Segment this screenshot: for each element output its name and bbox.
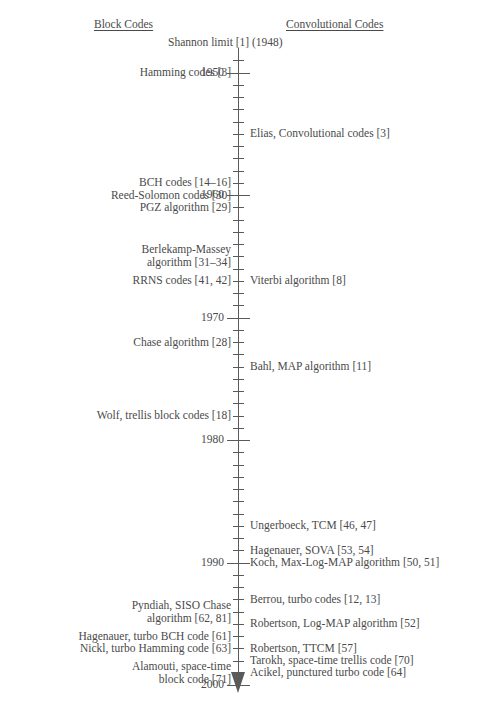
axis-tick-minor bbox=[233, 293, 244, 294]
axis-tick-minor bbox=[233, 599, 244, 600]
axis-tick-minor bbox=[233, 146, 244, 147]
column-heading-convolutional-codes: Convolutional Codes bbox=[286, 18, 383, 30]
axis-tick-minor bbox=[233, 183, 244, 184]
timeline-event-label: Berrou, turbo codes [12, 13] bbox=[250, 593, 380, 606]
timeline-event-label: Elias, Convolutional codes [3] bbox=[250, 127, 390, 140]
timeline-event-label: Bahl, MAP algorithm [11] bbox=[250, 360, 371, 373]
timeline-event-label: RRNS codes [41, 42] bbox=[133, 274, 231, 287]
timeline-axis-arrowhead bbox=[231, 672, 245, 693]
timeline-event-label: Alamouti, space-time block code [71] bbox=[132, 660, 231, 686]
axis-tick-minor bbox=[233, 514, 244, 515]
timeline-event-label: Chase algorithm [28] bbox=[133, 336, 231, 349]
axis-tick-minor bbox=[233, 624, 244, 625]
axis-tick-minor bbox=[233, 122, 244, 123]
axis-tick-minor bbox=[233, 465, 244, 466]
axis-tick-minor bbox=[233, 428, 244, 429]
axis-tick-minor bbox=[233, 538, 244, 539]
axis-tick-minor bbox=[233, 220, 244, 221]
axis-tick-minor bbox=[233, 232, 244, 233]
axis-tick-minor bbox=[233, 550, 244, 551]
axis-tick-minor bbox=[233, 391, 244, 392]
axis-year-label: 1970 bbox=[201, 311, 224, 323]
axis-tick-minor bbox=[233, 134, 244, 135]
axis-tick-minor bbox=[233, 60, 244, 61]
axis-tick-minor bbox=[233, 85, 244, 86]
axis-tick-minor bbox=[233, 367, 244, 368]
axis-tick-minor bbox=[233, 489, 244, 490]
axis-tick-major bbox=[227, 563, 250, 564]
axis-tick-minor bbox=[233, 612, 244, 613]
shannon-limit-annotation: Shannon limit [1] (1948) bbox=[168, 36, 283, 49]
timeline-event-label: Ungerboeck, TCM [46, 47] bbox=[250, 519, 376, 532]
timeline-event-label: Hamming codes [3] bbox=[140, 66, 231, 79]
axis-tick-minor bbox=[233, 207, 244, 208]
axis-tick-minor bbox=[233, 244, 244, 245]
timeline-event-label: Acikel, punctured turbo code [64] bbox=[250, 666, 406, 679]
axis-tick-minor bbox=[233, 305, 244, 306]
axis-tick-minor bbox=[233, 648, 244, 649]
timeline-event-label: Nickl, turbo Hamming code [63] bbox=[80, 642, 231, 655]
axis-tick-minor bbox=[233, 109, 244, 110]
axis-tick-minor bbox=[233, 501, 244, 502]
axis-tick-minor bbox=[233, 158, 244, 159]
column-heading-block-codes: Block Codes bbox=[94, 18, 153, 30]
timeline-event-label: BCH codes [14–16] bbox=[139, 176, 231, 189]
timeline-event-label: Berlekamp-Massey algorithm [31–34] bbox=[142, 243, 231, 269]
axis-tick-minor bbox=[233, 256, 244, 257]
axis-tick-minor bbox=[233, 661, 244, 662]
timeline-event-label: Robertson, Log-MAP algorithm [52] bbox=[250, 617, 420, 630]
axis-tick-minor bbox=[233, 330, 244, 331]
timeline-event-label: Koch, Max-Log-MAP algorithm [50, 51] bbox=[250, 556, 439, 569]
axis-year-label: 1990 bbox=[201, 556, 224, 568]
axis-tick-major bbox=[227, 318, 250, 319]
axis-year-label: 1980 bbox=[201, 433, 224, 445]
timeline-event-label: Wolf, trellis block codes [18] bbox=[97, 409, 231, 422]
coding-theory-timeline-figure: Block Codes Convolutional Codes Shannon … bbox=[0, 0, 477, 710]
axis-tick-minor bbox=[233, 673, 244, 674]
axis-tick-minor bbox=[233, 477, 244, 478]
axis-tick-minor bbox=[233, 171, 244, 172]
axis-tick-minor bbox=[233, 269, 244, 270]
axis-tick-minor bbox=[233, 281, 244, 282]
axis-tick-minor bbox=[233, 97, 244, 98]
timeline-event-label: PGZ algorithm [29] bbox=[140, 201, 231, 214]
axis-tick-minor bbox=[233, 403, 244, 404]
axis-tick-minor bbox=[233, 636, 244, 637]
axis-tick-minor bbox=[233, 526, 244, 527]
axis-tick-minor bbox=[233, 342, 244, 343]
axis-tick-major bbox=[227, 440, 250, 441]
axis-tick-minor bbox=[233, 575, 244, 576]
axis-tick-minor bbox=[233, 416, 244, 417]
axis-tick-minor bbox=[233, 379, 244, 380]
axis-tick-minor bbox=[233, 354, 244, 355]
axis-tick-minor bbox=[233, 452, 244, 453]
axis-tick-minor bbox=[233, 587, 244, 588]
timeline-event-label: Viterbi algorithm [8] bbox=[250, 274, 346, 287]
timeline-event-label: Pyndiah, SISO Chase algorithm [62, 81] bbox=[132, 599, 231, 625]
